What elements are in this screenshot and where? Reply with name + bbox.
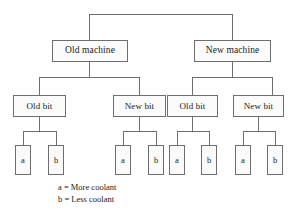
node-leaf-3a[interactable]: a: [169, 145, 185, 175]
old-machine-split-connector: [39, 77, 139, 78]
old-new-bit-to-leaf-a-connector: [123, 131, 124, 145]
node-old-machine-old-bit[interactable]: Old bit: [13, 95, 66, 117]
old-machine-stem-connector: [89, 62, 90, 77]
old-old-bit-split-connector: [23, 131, 56, 132]
old-old-bit-to-leaf-a-connector: [23, 131, 24, 145]
root-to-old-machine-connector: [89, 14, 90, 40]
new-new-bit-to-leaf-a-connector: [243, 131, 244, 145]
new-new-bit-split-connector: [243, 131, 275, 132]
old-old-bit-to-leaf-b-connector: [56, 131, 57, 145]
legend-entry-b: b = Less coolant: [58, 193, 116, 205]
root-horizontal-connector: [89, 14, 233, 15]
old-new-bit-to-leaf-b-connector: [156, 131, 157, 145]
node-new-machine-new-bit[interactable]: New bit: [233, 95, 284, 117]
old-machine-to-new-bit-connector: [139, 77, 140, 95]
coolant-legend: a = More coolant b = Less coolant: [58, 181, 116, 205]
node-leaf-3b[interactable]: b: [201, 145, 217, 175]
node-new-machine-old-bit[interactable]: Old bit: [167, 95, 218, 117]
new-old-bit-to-leaf-a-connector: [177, 131, 178, 145]
root-to-new-machine-connector: [232, 14, 233, 40]
new-old-bit-split-connector: [177, 131, 209, 132]
node-leaf-2b[interactable]: b: [148, 145, 164, 175]
new-machine-stem-connector: [232, 62, 233, 77]
node-old-machine[interactable]: Old machine: [52, 40, 128, 62]
nested-design-tree-diagram: Old machine New machine Old bit New bit …: [0, 0, 300, 213]
new-new-bit-stem-connector: [258, 117, 259, 131]
new-new-bit-to-leaf-b-connector: [275, 131, 276, 145]
node-leaf-1a[interactable]: a: [15, 145, 31, 175]
new-machine-split-connector: [192, 77, 272, 78]
new-machine-to-old-bit-connector: [192, 77, 193, 95]
new-old-bit-to-leaf-b-connector: [209, 131, 210, 145]
legend-entry-a: a = More coolant: [58, 181, 116, 193]
node-leaf-1b[interactable]: b: [48, 145, 64, 175]
new-machine-to-new-bit-connector: [272, 77, 273, 95]
old-new-bit-stem-connector: [139, 117, 140, 131]
node-old-machine-new-bit[interactable]: New bit: [113, 95, 166, 117]
node-leaf-2a[interactable]: a: [115, 145, 131, 175]
old-machine-to-old-bit-connector: [39, 77, 40, 95]
old-new-bit-split-connector: [123, 131, 156, 132]
node-new-machine[interactable]: New machine: [194, 40, 271, 62]
node-leaf-4b[interactable]: b: [267, 145, 283, 175]
new-old-bit-stem-connector: [192, 117, 193, 131]
old-old-bit-stem-connector: [39, 117, 40, 131]
node-leaf-4a[interactable]: a: [235, 145, 251, 175]
